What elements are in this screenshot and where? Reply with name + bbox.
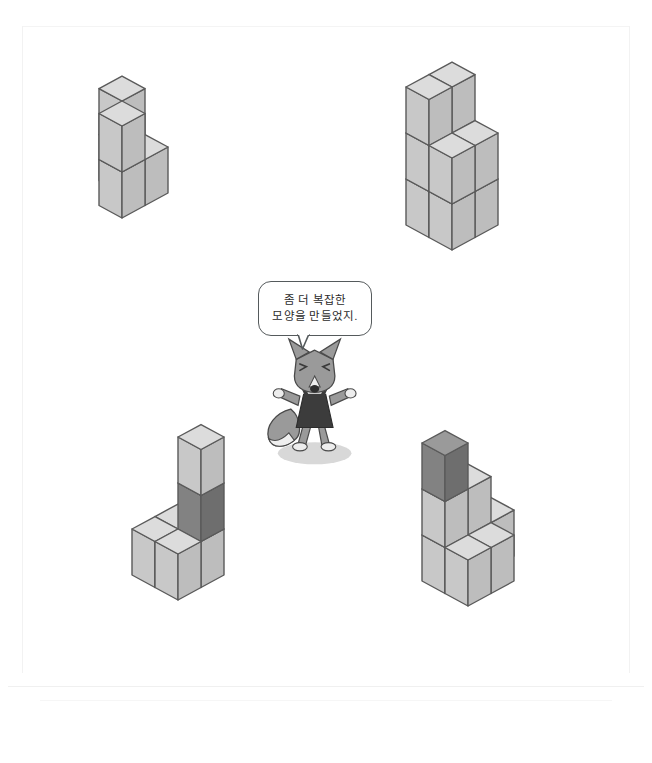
fox-foot-right [321,443,336,451]
fox-speech-bubble: 좀 더 복잡한 모양을 만들었지. [258,281,372,336]
speech-line-2: 모양을 만들었지. [272,310,357,323]
fox-shadow [278,442,352,464]
fox-foot-left [293,443,308,451]
fox-character [268,339,356,464]
cube-figures-canvas [0,0,652,763]
fox-hand-left [273,389,284,398]
fox-nose [310,385,319,392]
figure-bottom-right [422,431,514,606]
figure-top-left [99,76,168,218]
speech-bubble-tail [297,334,310,350]
fox-dress [296,394,333,427]
figure-top-right [406,62,498,250]
worksheet-page: 좀 더 복잡한 모양을 만들었지. [0,0,652,763]
speech-line-1: 좀 더 복잡한 [284,294,347,307]
fox-character-layer [268,339,356,464]
figure-bottom-left [132,425,224,600]
fox-hand-right [345,389,356,398]
